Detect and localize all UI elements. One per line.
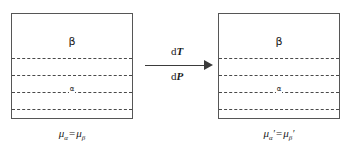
equals-sign-left: =	[68, 127, 76, 139]
chemical-potential-caption-initial: μα=μβ	[11, 128, 133, 142]
arrow-label-dt: dT	[140, 46, 214, 57]
phase-box-initial: β α	[11, 13, 133, 119]
alpha-phase-label-left-text: α	[69, 85, 76, 93]
interface-dashed-line-4-left	[12, 109, 132, 110]
pressure-variable: P	[176, 70, 183, 82]
subscript-beta-left: β	[82, 134, 86, 142]
temperature-variable: T	[176, 45, 183, 57]
beta-phase-label-right: β	[219, 36, 339, 47]
interface-dashed-line-2-right	[219, 75, 339, 76]
interface-dashed-line-4-right	[219, 109, 339, 110]
alpha-phase-label-left: α	[12, 86, 132, 93]
phase-box-final: β α	[218, 13, 340, 119]
arrow-label-dp: dP	[140, 71, 214, 82]
arrow-shaft	[145, 65, 205, 66]
transition-arrow-group: dT dP	[140, 40, 214, 92]
phase-equilibrium-diagram: β α μα=μβ dT dP β α μα′=μβ′	[0, 0, 351, 153]
prime-mark-beta-right: ′	[292, 128, 294, 139]
beta-phase-label-left: β	[12, 36, 132, 47]
chemical-potential-caption-final: μα′=μβ′	[218, 128, 340, 142]
interface-dashed-line-1-left	[12, 58, 132, 59]
alpha-phase-label-right: α	[219, 86, 339, 93]
arrow-head-icon	[204, 60, 213, 70]
equals-sign-right: =	[275, 127, 283, 139]
alpha-phase-label-right-text: α	[276, 85, 283, 93]
interface-dashed-line-1-right	[219, 58, 339, 59]
interface-dashed-line-2-left	[12, 75, 132, 76]
